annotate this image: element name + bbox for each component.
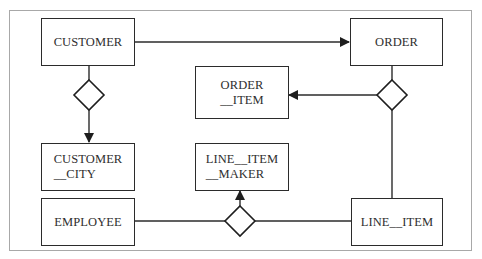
entity-label-line: CUSTOMER — [54, 35, 123, 50]
entity-label-line: ORDER — [375, 35, 418, 50]
entity-label-line: LINE__ITEM — [361, 215, 434, 230]
entity-line-item-maker[interactable]: LINE__ITEM __MAKER — [195, 143, 289, 191]
entity-label: CUSTOMER — [54, 35, 123, 50]
entity-label-line: LINE__ITEM — [206, 152, 279, 167]
entity-customer-city[interactable]: CUSTOMER __CITY — [41, 143, 135, 191]
entity-label: LINE__ITEM — [361, 215, 434, 230]
entity-label-line: __MAKER — [206, 167, 279, 182]
relationship-diamond-line-item-maker[interactable] — [225, 206, 255, 236]
entity-label: ORDER — [375, 35, 418, 50]
entity-label: EMPLOYEE — [54, 215, 121, 230]
entity-line-item[interactable]: LINE__ITEM — [351, 198, 443, 246]
entity-label-line: EMPLOYEE — [54, 215, 121, 230]
entity-label-line: CUSTOMER — [54, 152, 123, 167]
entity-customer[interactable]: CUSTOMER — [41, 18, 135, 66]
entity-label-line: __CITY — [54, 167, 123, 182]
entity-label-line: __ITEM — [220, 93, 264, 108]
entity-label: CUSTOMER __CITY — [54, 152, 123, 182]
relationship-diamond-customer-city[interactable] — [74, 80, 104, 110]
entity-employee[interactable]: EMPLOYEE — [41, 198, 135, 246]
entity-label: LINE__ITEM __MAKER — [206, 152, 279, 182]
entity-label: ORDER __ITEM — [220, 78, 264, 108]
entity-order-item[interactable]: ORDER __ITEM — [195, 66, 289, 119]
relationship-diamond-order-item[interactable] — [377, 80, 407, 110]
entity-label-line: ORDER — [220, 78, 264, 93]
entity-order[interactable]: ORDER — [350, 18, 443, 66]
